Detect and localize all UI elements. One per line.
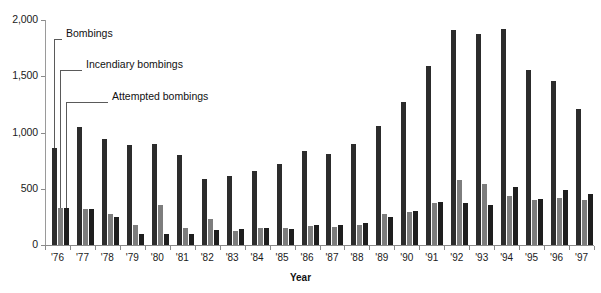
leader-line-vertical <box>60 70 61 208</box>
bar <box>382 214 387 246</box>
x-axis-label: '86 <box>295 252 320 263</box>
x-axis-label: '97 <box>569 252 594 263</box>
y-tick-label: 1,500 <box>12 69 38 81</box>
bar <box>432 203 437 245</box>
x-axis-label: '95 <box>519 252 544 263</box>
x-tick-mark <box>145 246 146 250</box>
bar-group <box>177 20 194 245</box>
x-axis-label: '91 <box>419 252 444 263</box>
annotation-label-bombings: Bombings <box>66 27 113 39</box>
y-axis-tick: 0 <box>0 245 45 246</box>
x-tick-mark <box>419 246 420 250</box>
x-tick-mark <box>120 246 121 250</box>
bar <box>314 225 319 245</box>
x-tick-mark <box>369 246 370 250</box>
x-tick-mark <box>45 246 46 250</box>
bar <box>557 198 562 245</box>
bar-group <box>426 20 443 245</box>
cropped-title-remnant <box>34 0 124 6</box>
bar <box>526 70 531 246</box>
bar-group <box>351 20 368 245</box>
bar <box>214 230 219 245</box>
y-tick-label: 2,000 <box>12 13 38 25</box>
x-axis-label: '93 <box>469 252 494 263</box>
bar <box>457 180 462 245</box>
bar <box>258 228 263 245</box>
bar <box>357 225 362 245</box>
bar <box>239 229 244 245</box>
bar <box>189 234 194 245</box>
bar <box>289 229 294 245</box>
bar <box>482 184 487 245</box>
bar <box>308 226 313 245</box>
bar <box>588 194 593 245</box>
x-tick-mark <box>170 246 171 250</box>
bar <box>77 127 82 245</box>
bar <box>538 199 543 245</box>
x-axis-label: '79 <box>120 252 145 263</box>
bar <box>64 208 69 245</box>
bar <box>102 139 107 245</box>
bar <box>507 196 512 246</box>
y-tick-label: 0 <box>32 238 38 250</box>
y-axis-tick: 1,500 <box>0 76 45 77</box>
bar <box>89 209 94 245</box>
y-tick-label: 1,000 <box>12 126 38 138</box>
leader-line-horizontal <box>66 102 108 103</box>
leader-line-horizontal <box>60 70 82 71</box>
bar <box>302 151 307 246</box>
bar <box>451 30 456 245</box>
bar-group <box>551 20 568 245</box>
bar <box>227 176 232 245</box>
x-tick-mark <box>594 246 595 250</box>
x-axis-label: '76 <box>45 252 70 263</box>
bar <box>252 171 257 245</box>
bar <box>164 234 169 245</box>
x-tick-mark <box>519 246 520 250</box>
x-axis-label: '85 <box>270 252 295 263</box>
bar <box>338 225 343 245</box>
x-axis-label: '84 <box>245 252 270 263</box>
bar <box>208 219 213 245</box>
bar <box>476 34 481 246</box>
annotation-label-incendiary-bombings: Incendiary bombings <box>86 58 183 70</box>
bar-group <box>526 20 543 245</box>
bar <box>158 205 163 246</box>
bar <box>438 202 443 245</box>
x-axis-label: '82 <box>195 252 220 263</box>
bar <box>551 81 556 245</box>
x-axis-label: '88 <box>344 252 369 263</box>
bombing-incidents-bar-chart: 05001,0001,5002,000 '76'77'78'79'80'81'8… <box>0 0 601 293</box>
x-axis-label: '80 <box>145 252 170 263</box>
y-axis-tick: 1,000 <box>0 133 45 134</box>
bar <box>152 144 157 245</box>
bar <box>233 231 238 245</box>
bar <box>363 223 368 245</box>
bar <box>283 228 288 245</box>
x-tick-mark <box>95 246 96 250</box>
x-tick-mark <box>245 246 246 250</box>
x-axis-label: '89 <box>369 252 394 263</box>
x-tick-mark <box>469 246 470 250</box>
x-axis-label: '78 <box>95 252 120 263</box>
leader-line-horizontal <box>54 39 62 40</box>
x-tick-mark <box>295 246 296 250</box>
x-tick-mark <box>320 246 321 250</box>
bar-group <box>277 20 294 245</box>
x-tick-mark <box>195 246 196 250</box>
x-tick-mark <box>494 246 495 250</box>
bar <box>407 212 412 245</box>
bar-group <box>476 20 493 245</box>
bar <box>388 217 393 245</box>
bar <box>426 66 431 245</box>
bar <box>332 227 337 245</box>
bar-group <box>501 20 518 245</box>
leader-line-vertical <box>54 39 55 148</box>
x-axis-label: '90 <box>394 252 419 263</box>
bar <box>277 164 282 245</box>
bar <box>183 228 188 245</box>
bar <box>501 29 506 245</box>
bar <box>351 144 356 245</box>
bar-group <box>77 20 94 245</box>
x-axis-label: '96 <box>544 252 569 263</box>
